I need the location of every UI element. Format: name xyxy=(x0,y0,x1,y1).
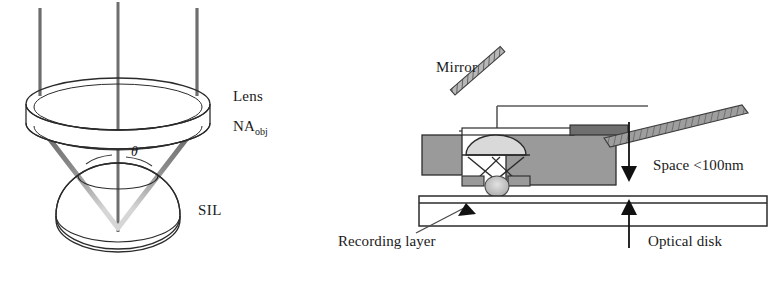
figure-root: Lens NAobj SIL θ Mirror Space <100nm Rec… xyxy=(0,0,782,303)
label-na-obj: NAobj xyxy=(233,119,268,138)
label-lens: Lens xyxy=(233,89,263,105)
label-na-prefix: NA xyxy=(233,118,255,134)
label-space-gap: Space <100nm xyxy=(653,158,744,174)
label-recording-layer: Recording layer xyxy=(338,234,436,250)
pad-right xyxy=(508,176,530,186)
label-mirror: Mirror xyxy=(436,60,477,76)
label-optical-disk: Optical disk xyxy=(648,234,722,250)
left-diagram-group xyxy=(26,2,210,252)
figure-canvas xyxy=(0,0,782,303)
right-diagram-group xyxy=(416,46,767,248)
arm-clamp-pad xyxy=(570,125,628,135)
slider-block-left xyxy=(422,135,462,175)
objective-lens xyxy=(26,78,210,150)
sil-hemisphere xyxy=(56,163,180,252)
label-theta-angle: θ xyxy=(131,145,138,160)
label-na-subscript: obj xyxy=(255,126,268,137)
theta-arc-left xyxy=(86,155,112,164)
gap-arrowhead-down xyxy=(621,166,637,182)
pad-left xyxy=(462,176,484,186)
sil-tip xyxy=(485,176,509,197)
label-sil: SIL xyxy=(198,203,222,219)
slider-deck xyxy=(462,128,574,135)
